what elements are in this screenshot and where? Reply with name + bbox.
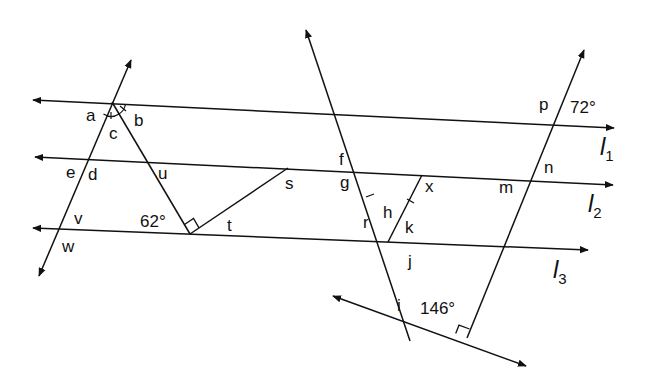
geometry-diagram: a b c e d u v w 62° t s f g h r k x j i …: [0, 0, 646, 392]
label-a: a: [86, 106, 96, 125]
right-transversal: [467, 50, 584, 338]
left-transversal: [39, 60, 131, 276]
right-angle-marker-t: [185, 219, 200, 228]
label-n: n: [544, 158, 553, 177]
label-j: j: [407, 252, 412, 271]
label-m: m: [499, 178, 513, 197]
line-label-l2: l2: [588, 190, 602, 221]
tick-mark-r: [366, 194, 374, 197]
label-c: c: [109, 124, 118, 143]
label-v: v: [74, 209, 83, 228]
label-p: p: [539, 95, 548, 114]
label-i: i: [397, 296, 401, 315]
given-angle-72: 72°: [570, 98, 596, 117]
parallel-line-l1: [33, 100, 614, 128]
middle-transversal: [306, 30, 410, 341]
label-e: e: [66, 163, 75, 182]
label-d: d: [88, 165, 97, 184]
label-r: r: [363, 213, 369, 232]
line-label-l3: l3: [553, 256, 567, 287]
segment-t-s: [190, 168, 288, 234]
label-k: k: [405, 218, 414, 237]
label-w: w: [61, 237, 75, 256]
label-g: g: [340, 173, 349, 192]
right-angle-marker-bottom: [456, 325, 470, 333]
label-f: f: [339, 150, 344, 169]
given-angle-62: 62°: [140, 212, 166, 231]
line-label-l1: l1: [600, 133, 614, 164]
given-angle-146: 146°: [420, 299, 455, 318]
label-t: t: [227, 216, 232, 235]
parallel-line-l2: [35, 157, 613, 185]
label-h: h: [383, 203, 392, 222]
label-u: u: [158, 164, 167, 183]
label-b: b: [134, 111, 143, 130]
label-x: x: [425, 177, 434, 196]
label-s: s: [285, 174, 294, 193]
